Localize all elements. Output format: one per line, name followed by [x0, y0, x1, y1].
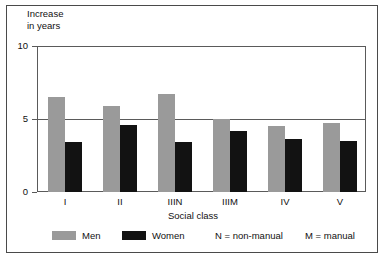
x-tick-label-II: II	[90, 196, 150, 207]
y-tick-label-10: 10	[8, 40, 28, 51]
y-axis-caption: Increase in years	[27, 8, 63, 32]
x-axis-title: Social class	[0, 210, 386, 221]
legend-item-women: Women	[122, 230, 185, 241]
x-tick-label-IIIM: IIIM	[200, 196, 260, 207]
legend: Men Women N = non-manual M = manual	[0, 228, 386, 244]
x-tick-label-I: I	[35, 196, 95, 207]
y-tick-5	[32, 119, 37, 120]
legend-item-men: Men	[52, 230, 100, 241]
legend-note-manual: M = manual	[305, 230, 355, 241]
legend-note-non-manual: N = non-manual	[215, 230, 283, 241]
legend-swatch-men-icon	[52, 231, 76, 240]
y-tick-10	[32, 46, 37, 47]
x-tick-label-V: V	[310, 196, 370, 207]
x-tick-label-IIIN: IIIN	[145, 196, 205, 207]
legend-label-women: Women	[152, 230, 185, 241]
y-tick-label-0: 0	[8, 186, 28, 197]
chart-figure: Increase in years 10 5 0 I II IIIN IIIM …	[0, 0, 386, 262]
x-tick-label-IV: IV	[255, 196, 315, 207]
y-tick-label-5: 5	[8, 113, 28, 124]
legend-swatch-women-icon	[122, 231, 146, 240]
legend-label-men: Men	[82, 230, 100, 241]
gridline-5	[37, 119, 366, 120]
y-tick-0	[32, 192, 37, 193]
